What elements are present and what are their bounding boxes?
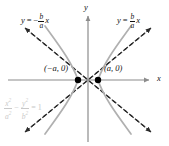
equation-rhs: 1	[38, 103, 42, 112]
equation-term1-den-exp: 2	[9, 110, 12, 116]
vertex-point-positive-a	[95, 77, 101, 83]
vertex-label-negative-a: (−a, 0)	[44, 64, 68, 73]
equation-term2-num-exp: 2	[25, 97, 28, 103]
equation-term1-denominator: a2	[4, 108, 12, 121]
equation-term1-num-exp: 2	[9, 97, 12, 103]
equation-term2-den-exp: 2	[26, 110, 29, 116]
equation-term-2: y2b2	[21, 96, 29, 120]
hyperbola-figure: y x y=−bax y=bax (−a, 0) (a, 0) x2a2−y2b…	[0, 0, 169, 146]
x-axis-label: x	[157, 74, 161, 83]
asymptote-right-variable: x	[136, 15, 140, 25]
equation-term-1: x2a2	[4, 96, 12, 120]
equation-term1-numerator: x2	[4, 96, 12, 108]
asymptote-right-lhs: y	[117, 15, 121, 25]
equation-term2-numerator: y2	[21, 96, 29, 108]
asymptote-left-equals: =	[27, 15, 32, 25]
asymptote-right-denominator: a	[130, 21, 136, 30]
asymptote-right-fraction: ba	[130, 13, 136, 30]
asymptote-label-right: y=bax	[117, 13, 140, 30]
asymptote-left-numerator: b	[38, 13, 44, 21]
equation-term2-denominator: b2	[21, 108, 29, 121]
asymptote-left-denominator: a	[38, 21, 44, 30]
asymptote-left-fraction: ba	[38, 13, 44, 30]
asymptote-right-equals: =	[123, 15, 128, 25]
asymptote-left-variable: x	[45, 15, 49, 25]
y-axis-label: y	[84, 3, 88, 12]
vertex-label-positive-a: (a, 0)	[104, 64, 122, 73]
equation-equals: =	[31, 103, 36, 112]
asymptote-right-numerator: b	[130, 13, 136, 21]
asymptote-label-left: y=−bax	[21, 13, 49, 30]
asymptote-left-lhs: y	[21, 15, 25, 25]
hyperbola-equation: x2a2−y2b2=1	[4, 96, 42, 120]
vertex-point-negative-a	[75, 77, 81, 83]
equation-operator: −	[14, 103, 19, 112]
